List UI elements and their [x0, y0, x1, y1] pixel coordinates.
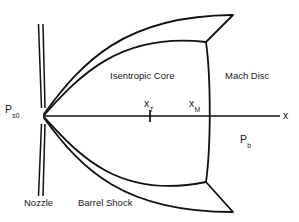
- isentropic-core-label: Isentropic Core: [110, 71, 174, 81]
- x-transition-label: xT: [144, 98, 153, 112]
- upper-tail-shock: [206, 15, 233, 42]
- stagnation-pressure-subscript: s0: [12, 112, 19, 119]
- back-pressure-subscript: b: [247, 142, 251, 149]
- x-mach-symbol: x: [189, 97, 194, 109]
- mach-disc-line: [206, 42, 210, 182]
- jet-shock-structure-diagram: Ps0 Nozzle Barrel Shock Isentropic Core …: [0, 0, 299, 222]
- barrel-shock-lower-curve: [44, 117, 206, 186]
- x-transition-subscript: T: [150, 106, 154, 113]
- nozzle-upper-wall: [39, 24, 46, 108]
- nozzle-lower-wall: [39, 124, 46, 196]
- stagnation-pressure-symbol: P: [5, 103, 12, 115]
- reflected-shock-lower-curve: [44, 118, 232, 212]
- x-mach-label: xM: [189, 98, 200, 112]
- x-axis-label: x: [283, 110, 288, 121]
- barrel-shock-label: Barrel Shock: [78, 198, 132, 208]
- lower-tail-shock: [206, 182, 233, 212]
- x-transition-symbol: x: [144, 97, 149, 109]
- x-mach-subscript: M: [195, 106, 201, 113]
- back-pressure-label: Pb: [240, 134, 251, 148]
- reflected-shock-upper-curve: [44, 15, 232, 114]
- back-pressure-symbol: P: [240, 133, 247, 145]
- nozzle-label: Nozzle: [24, 198, 53, 208]
- stagnation-pressure-label: Ps0: [5, 104, 19, 118]
- mach-disc-label: Mach Disc: [225, 71, 269, 81]
